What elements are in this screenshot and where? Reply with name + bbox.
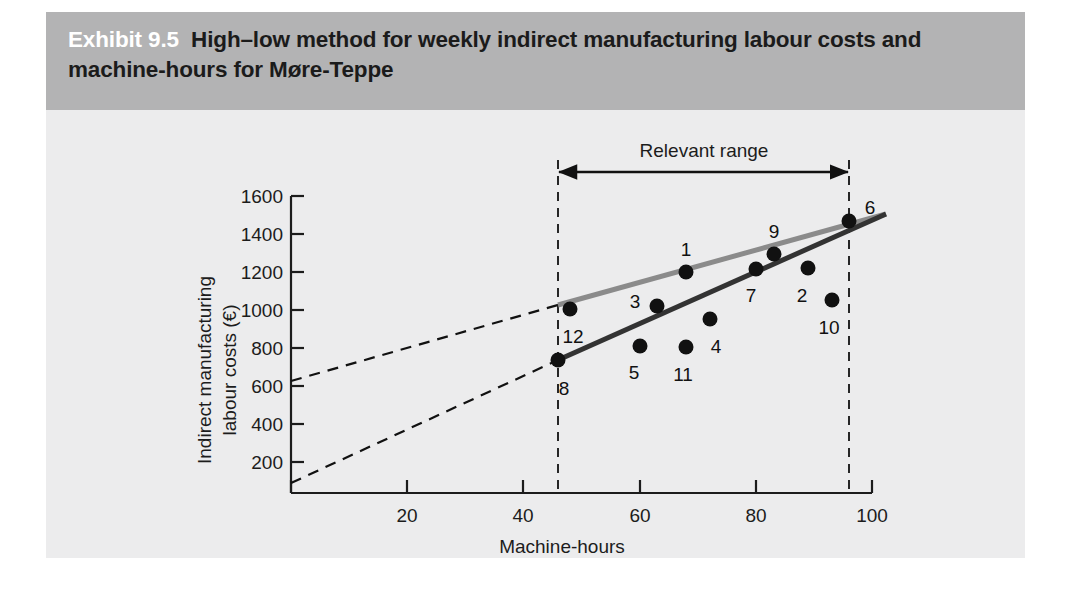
- data-point-label: 4: [711, 336, 722, 357]
- exhibit-title-spacer: [179, 27, 191, 52]
- data-point[interactable]: [650, 299, 665, 314]
- upper-cost-line: [558, 214, 886, 305]
- data-points: 1 2 3 4 5 6: [551, 197, 876, 399]
- x-axis-title: Machine-hours: [499, 536, 625, 557]
- data-point-label: 7: [746, 285, 757, 306]
- y-tick-label-1600: 1600: [241, 186, 283, 207]
- data-point-label: 3: [630, 291, 641, 312]
- y-tick-label-1400: 1400: [241, 224, 283, 245]
- upper-line-extrapolation: [291, 305, 558, 381]
- x-tick-label-80: 80: [745, 505, 766, 526]
- y-axis-title-line1: Indirect manufacturing: [194, 276, 215, 464]
- y-axis-title: Indirect manufacturing labour costs (€): [194, 276, 240, 464]
- exhibit-panel: Exhibit 9.5 High–low method for weekly i…: [46, 12, 1025, 558]
- data-point[interactable]: [563, 302, 578, 317]
- y-axis: 1600 1400 1200 1000 800 600 400 200: [241, 186, 304, 493]
- y-axis-title-line2: labour costs (€): [219, 305, 240, 436]
- exhibit-number: Exhibit 9.5: [68, 27, 179, 52]
- data-point[interactable]: [551, 353, 566, 368]
- x-tick-label-20: 20: [396, 505, 417, 526]
- data-point-label: 9: [769, 221, 780, 242]
- x-tick-label-60: 60: [629, 505, 650, 526]
- page-root: Exhibit 9.5 High–low method for weekly i…: [0, 0, 1080, 592]
- chart-figure: Indirect manufacturing labour costs (€) …: [46, 110, 1025, 558]
- y-tick-label-1200: 1200: [241, 262, 283, 283]
- data-point[interactable]: [825, 293, 840, 308]
- data-point-label: 10: [818, 317, 839, 338]
- data-point-label: 5: [629, 362, 640, 383]
- data-point[interactable]: [767, 247, 782, 262]
- y-tick-label-600: 600: [251, 376, 283, 397]
- relevant-range-annotation: Relevant range: [559, 140, 848, 172]
- scatter-chart: Indirect manufacturing labour costs (€) …: [46, 110, 1025, 558]
- highlow-cost-line: [558, 214, 886, 360]
- data-point[interactable]: [679, 340, 694, 355]
- y-tick-label-1000: 1000: [241, 300, 283, 321]
- y-tick-label-400: 400: [251, 414, 283, 435]
- x-tick-label-100: 100: [856, 505, 888, 526]
- data-point[interactable]: [679, 265, 694, 280]
- data-point[interactable]: [842, 214, 857, 229]
- x-tick-label-40: 40: [512, 505, 533, 526]
- data-point-label: 11: [673, 364, 693, 385]
- exhibit-header: Exhibit 9.5 High–low method for weekly i…: [46, 12, 1025, 110]
- data-point[interactable]: [633, 339, 648, 354]
- data-point-label: 8: [559, 378, 570, 399]
- cost-lines: [558, 214, 886, 360]
- data-point-label: 2: [797, 285, 808, 306]
- y-tick-label-800: 800: [251, 338, 283, 359]
- data-point[interactable]: [703, 312, 718, 327]
- y-tick-label-200: 200: [251, 452, 283, 473]
- data-point[interactable]: [801, 261, 816, 276]
- data-point[interactable]: [749, 262, 764, 277]
- data-point-label: 1: [681, 239, 692, 260]
- x-axis: 20 40 60 80 100 Machine-hours: [291, 480, 888, 557]
- data-point-label: 12: [562, 326, 583, 347]
- highlow-line-extrapolation: [291, 360, 558, 483]
- data-point-label: 6: [865, 197, 876, 218]
- extrapolation-lines: [291, 305, 558, 483]
- relevant-range-label: Relevant range: [640, 140, 769, 161]
- exhibit-title: Exhibit 9.5 High–low method for weekly i…: [68, 25, 1001, 84]
- relevant-range-boundaries: [558, 160, 849, 493]
- exhibit-title-text: High–low method for weekly indirect manu…: [68, 27, 921, 82]
